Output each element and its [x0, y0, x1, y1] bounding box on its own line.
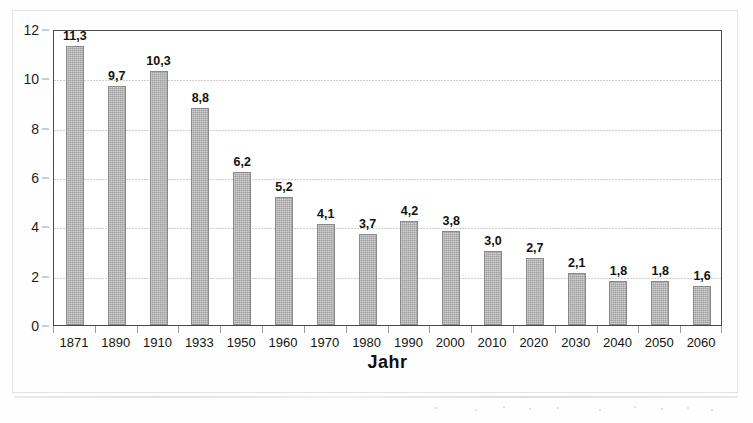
bar-slot[interactable]: 3,8: [430, 31, 472, 325]
x-axis-tick-label: 2030: [561, 335, 590, 350]
x-axis-tick-label: 1933: [185, 335, 214, 350]
y-axis-tick-mark: [42, 276, 49, 277]
x-axis-tick-label: 1871: [59, 335, 88, 350]
bar-value-label: 1,8: [652, 264, 669, 278]
bar[interactable]: [150, 71, 168, 325]
scanned-page: 024681012 11,39,710,38,86,25,24,13,74,23…: [0, 0, 753, 423]
x-axis-tick-mark: [53, 326, 54, 333]
y-axis-tick-mark: [42, 30, 49, 31]
y-axis-tick-label: 10: [23, 71, 39, 87]
bar[interactable]: [108, 86, 126, 325]
bar[interactable]: [568, 273, 586, 325]
bar-slot[interactable]: 1,6: [681, 31, 723, 325]
y-axis-tick-mark: [42, 128, 49, 129]
x-axis-tick-mark: [513, 326, 514, 333]
bar-slot[interactable]: 9,7: [96, 31, 138, 325]
y-axis-tick-mark: [42, 326, 49, 327]
bar[interactable]: [484, 251, 502, 325]
x-axis-tick-label: 1970: [310, 335, 339, 350]
bar-chart: 024681012 11,39,710,38,86,25,24,13,74,23…: [0, 0, 753, 423]
bar-slot[interactable]: 4,1: [305, 31, 347, 325]
x-axis-tick-label: 2040: [603, 335, 632, 350]
x-axis-tick-label: 2010: [478, 335, 507, 350]
bar[interactable]: [359, 234, 377, 325]
x-axis-tick-mark: [137, 326, 138, 333]
bar-slot[interactable]: 1,8: [639, 31, 681, 325]
y-axis-tick-label: 2: [31, 269, 39, 285]
x-axis-tick-label: 1960: [269, 335, 298, 350]
x-axis-tick-label: 2050: [645, 335, 674, 350]
bar-slot[interactable]: 4,2: [389, 31, 431, 325]
bar-value-label: 2,7: [526, 241, 543, 255]
bar[interactable]: [191, 108, 209, 325]
y-axis-tick-label: 12: [23, 22, 39, 38]
bar-value-label: 9,7: [108, 69, 125, 83]
bar-slot[interactable]: 11,3: [54, 31, 96, 325]
x-axis-tick-mark: [304, 326, 305, 333]
x-axis-tick-mark: [388, 326, 389, 333]
x-axis-tick-mark: [95, 326, 96, 333]
x-axis-tick-label: 1890: [101, 335, 130, 350]
bar-slot[interactable]: 3,0: [472, 31, 514, 325]
y-axis-tick-label: 0: [31, 318, 39, 334]
bar[interactable]: [66, 46, 84, 325]
bar-value-label: 2,1: [568, 256, 585, 270]
bar-value-label: 11,3: [63, 29, 87, 43]
bar-slot[interactable]: 8,8: [179, 31, 221, 325]
bar-value-label: 3,0: [484, 234, 501, 248]
y-axis-tick-mark: [42, 227, 49, 228]
y-axis: 024681012: [0, 30, 53, 326]
y-axis-tick-label: 4: [31, 219, 39, 235]
bar-value-label: 4,2: [401, 204, 418, 218]
bar-value-label: 8,8: [192, 91, 209, 105]
bar-slot[interactable]: 5,2: [263, 31, 305, 325]
bar-slot[interactable]: 3,7: [347, 31, 389, 325]
x-axis-tick-label: 2020: [519, 335, 548, 350]
bar-value-label: 6,2: [233, 155, 250, 169]
x-axis-tick-mark: [597, 326, 598, 333]
x-axis-tick-mark: [680, 326, 681, 333]
bar[interactable]: [526, 258, 544, 325]
x-axis-tick-label: 1910: [143, 335, 172, 350]
bar-value-label: 5,2: [275, 180, 292, 194]
x-axis-tick-mark: [471, 326, 472, 333]
bar-slot[interactable]: 2,7: [514, 31, 556, 325]
bar-value-label: 4,1: [317, 207, 334, 221]
bar-slot[interactable]: 6,2: [221, 31, 263, 325]
bar[interactable]: [275, 197, 293, 325]
x-axis-tick-mark: [638, 326, 639, 333]
bar-value-label: 1,8: [610, 264, 627, 278]
y-axis-tick-mark: [42, 79, 49, 80]
x-axis-tick-label: 2000: [436, 335, 465, 350]
bar-slot[interactable]: 1,8: [598, 31, 640, 325]
bar[interactable]: [317, 224, 335, 325]
bar-slot[interactable]: 10,3: [138, 31, 180, 325]
x-axis-tick-mark: [429, 326, 430, 333]
y-axis-tick-label: 6: [31, 170, 39, 186]
bar[interactable]: [400, 221, 418, 325]
x-axis-tick-label: 1980: [352, 335, 381, 350]
bar-value-label: 10,3: [146, 54, 170, 68]
y-axis-tick-mark: [42, 178, 49, 179]
x-axis-tick-mark: [346, 326, 347, 333]
bar-value-label: 3,8: [443, 214, 460, 228]
y-axis-tick-label: 8: [31, 121, 39, 137]
x-axis-tick-mark: [262, 326, 263, 333]
bar[interactable]: [442, 231, 460, 325]
bar[interactable]: [609, 281, 627, 325]
x-axis-tick-mark: [220, 326, 221, 333]
bar[interactable]: [651, 281, 669, 325]
x-axis-tick-label: 2060: [687, 335, 716, 350]
x-axis-tick-mark: [178, 326, 179, 333]
x-axis-tick-label: 1990: [394, 335, 423, 350]
x-axis-tick-label: 1950: [227, 335, 256, 350]
x-axis-title: Jahr: [53, 352, 722, 373]
bar-value-label: 3,7: [359, 217, 376, 231]
x-axis-tick-mark: [555, 326, 556, 333]
bar-slot[interactable]: 2,1: [556, 31, 598, 325]
x-axis-tick-mark: [721, 326, 722, 333]
bar[interactable]: [693, 286, 711, 325]
plot-area: 11,39,710,38,86,25,24,13,74,23,83,02,72,…: [53, 30, 722, 326]
bar[interactable]: [233, 172, 251, 325]
bar-value-label: 1,6: [693, 269, 710, 283]
